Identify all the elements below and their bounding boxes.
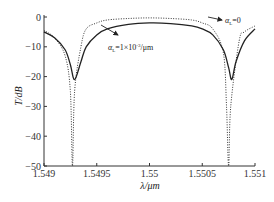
y-tick-label: −40: [25, 131, 41, 142]
annotation-dotted-text: αL=0: [225, 16, 241, 26]
y-axis-title: T/dB: [13, 86, 24, 105]
y-tick-label: −30: [25, 101, 41, 112]
x-ticks: 1.5491.54951.551.55051.551: [33, 163, 267, 179]
annotation-solid-text: αL=1×10-3/μm: [108, 43, 154, 53]
transmission-chart: 0−10−20−30−40−50 1.5491.54951.551.55051.…: [0, 0, 274, 202]
arrow-icon: [208, 17, 222, 20]
x-tick-label: 1.5505: [189, 168, 217, 179]
y-tick-label: 0: [36, 12, 41, 23]
x-tick-label: 1.55: [141, 168, 159, 179]
series-alpha-zero-dotted: [44, 18, 255, 166]
x-tick-label: 1.5495: [83, 168, 111, 179]
y-tick-label: −10: [25, 41, 41, 52]
x-axis-title: λ/μm: [139, 180, 159, 191]
axes: [44, 15, 255, 166]
annotation-dotted: αL=0: [208, 16, 241, 26]
x-tick-label: 1.549: [33, 168, 56, 179]
y-tick-label: −20: [25, 71, 41, 82]
x-tick-label: 1.551: [244, 168, 267, 179]
annotation-solid: αL=1×10-3/μm: [101, 25, 154, 53]
